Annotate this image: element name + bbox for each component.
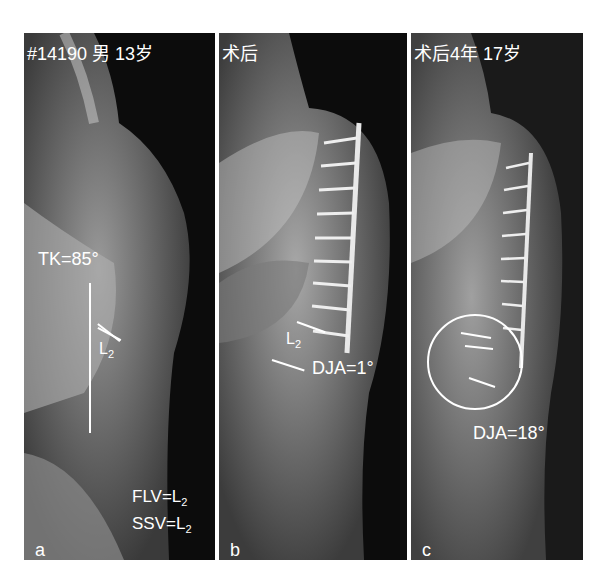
panel-b-header: 术后 xyxy=(222,45,258,63)
plumb-line xyxy=(89,283,91,433)
flv-label: FLV=L2 xyxy=(132,488,187,508)
vertebra-label-l2: L2 xyxy=(99,341,114,360)
panel-letter-c: c xyxy=(422,541,431,559)
panel-letter-a: a xyxy=(35,541,45,559)
dja-angle-label: DJA=18° xyxy=(473,424,545,442)
vertebra-label-l2: L2 xyxy=(286,331,301,350)
xray-panel-b: 术后 L2 DJA=1° b xyxy=(219,33,407,560)
xray-image-postoperative xyxy=(219,33,407,560)
panel-c-header: 术后4年 17岁 xyxy=(414,45,521,63)
tk-angle-label: TK=85° xyxy=(38,250,99,268)
xray-panel-a: #14190 男 13岁 TK=85° L2 FLV=L2 SSV=L2 a xyxy=(24,33,215,560)
ssv-label: SSV=L2 xyxy=(132,515,192,535)
dja-angle-label: DJA=1° xyxy=(312,359,374,377)
xray-image-preoperative xyxy=(24,33,215,560)
xray-image-4yr-followup xyxy=(411,33,583,560)
xray-panel-c: 术后4年 17岁 DJA=18° c xyxy=(411,33,583,560)
panel-letter-b: b xyxy=(230,541,240,559)
panel-a-header: #14190 男 13岁 xyxy=(27,45,153,63)
